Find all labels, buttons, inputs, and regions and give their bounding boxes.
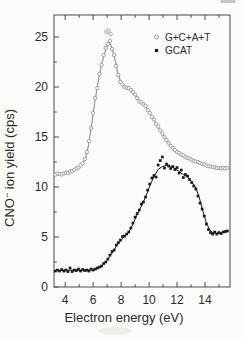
data-point-circle	[104, 46, 107, 49]
data-point-circle	[115, 64, 118, 67]
data-point-circle	[226, 166, 229, 169]
series-line	[54, 166, 228, 271]
data-point-square	[178, 172, 181, 175]
scanned-figure-page: 4681012140510152025G+C+A+TGCATElectron e…	[0, 0, 242, 341]
legend-marker-filled-square	[155, 49, 158, 52]
data-point-square	[172, 165, 175, 168]
data-point-circle	[161, 132, 164, 135]
data-point-circle	[102, 53, 105, 56]
data-point-square	[130, 227, 133, 230]
data-point-circle	[85, 150, 88, 153]
data-point-square	[176, 166, 179, 169]
data-point-circle	[108, 39, 111, 42]
data-point-square	[119, 239, 122, 242]
data-point-circle	[107, 29, 110, 32]
data-point-circle	[98, 72, 101, 75]
data-point-square	[67, 270, 70, 273]
data-point-circle	[83, 157, 86, 160]
series-line	[54, 42, 228, 174]
data-point-square	[182, 176, 185, 179]
x-axis-label: Electron energy (eV)	[64, 310, 183, 325]
data-point-circle	[110, 47, 113, 50]
series-gcat	[54, 156, 229, 273]
data-point-square	[188, 178, 191, 181]
data-point-square	[117, 241, 120, 244]
data-point-circle	[144, 104, 147, 107]
data-point-square	[127, 231, 130, 234]
data-point-square	[161, 156, 164, 159]
y-tick-label: 20	[35, 80, 49, 94]
legend: G+C+A+TGCAT	[155, 32, 211, 57]
chart-container: 4681012140510152025G+C+A+TGCATElectron e…	[0, 0, 242, 341]
data-point-circle	[100, 63, 103, 66]
data-point-square	[132, 222, 135, 225]
x-tick-label: 12	[170, 293, 184, 307]
data-point-circle	[156, 125, 159, 128]
data-point-square	[192, 185, 195, 188]
series-gcat	[54, 29, 229, 176]
data-point-circle	[136, 96, 139, 99]
data-point-square	[142, 201, 145, 204]
y-tick-label: 10	[35, 180, 49, 194]
data-point-square	[151, 177, 154, 180]
x-tick-label: 4	[62, 293, 69, 307]
data-point-square	[203, 215, 206, 218]
legend-marker-open-circle	[155, 35, 159, 39]
data-point-square	[134, 216, 137, 219]
data-point-square	[197, 195, 200, 198]
data-point-circle	[96, 86, 99, 89]
data-point-square	[138, 209, 141, 212]
y-axis-label: CNO− ion yield (cps)	[2, 109, 17, 227]
data-point-square	[115, 244, 118, 247]
y-tick-label: 25	[35, 30, 49, 44]
y-tick-label: 15	[35, 130, 49, 144]
data-point-square	[107, 258, 110, 261]
data-point-square	[207, 228, 210, 231]
data-point-square	[157, 164, 160, 167]
data-point-square	[146, 189, 149, 192]
data-point-square	[144, 196, 147, 199]
data-point-square	[109, 254, 112, 257]
data-point-square	[190, 181, 193, 184]
data-point-square	[199, 202, 202, 205]
data-point-square	[186, 175, 189, 178]
plot-frame	[54, 15, 230, 287]
data-point-square	[113, 249, 116, 252]
data-point-circle	[117, 73, 120, 76]
data-point-square	[195, 188, 198, 191]
data-point-square	[100, 265, 103, 268]
legend-label: GCAT	[165, 45, 192, 56]
data-point-circle	[89, 126, 92, 129]
data-point-circle	[112, 53, 115, 56]
data-point-square	[167, 165, 170, 168]
data-point-square	[159, 159, 162, 162]
data-point-circle	[148, 111, 151, 114]
data-point-circle	[87, 139, 90, 142]
y-tick-label: 0	[41, 280, 48, 294]
data-point-square	[136, 212, 139, 215]
data-point-square	[163, 167, 166, 170]
data-point-square	[201, 208, 204, 211]
y-tick-label: 5	[41, 230, 48, 244]
data-point-circle	[81, 162, 84, 165]
x-tick-label: 8	[118, 293, 125, 307]
data-point-square	[180, 169, 183, 172]
legend-label: G+C+A+T	[165, 32, 210, 43]
data-point-square	[69, 267, 72, 270]
data-point-square	[104, 261, 107, 264]
data-point-square	[226, 230, 229, 233]
x-tick-label: 14	[198, 293, 212, 307]
data-point-circle	[109, 32, 112, 35]
data-point-square	[205, 223, 208, 226]
x-tick-label: 10	[142, 293, 156, 307]
data-point-square	[155, 176, 158, 179]
data-point-circle	[133, 93, 136, 96]
data-point-circle	[152, 118, 155, 121]
data-point-circle	[91, 111, 94, 114]
x-tick-label: 6	[90, 293, 97, 307]
chart-svg: 4681012140510152025G+C+A+TGCATElectron e…	[0, 0, 242, 341]
data-point-square	[148, 183, 151, 186]
data-point-circle	[94, 96, 97, 99]
